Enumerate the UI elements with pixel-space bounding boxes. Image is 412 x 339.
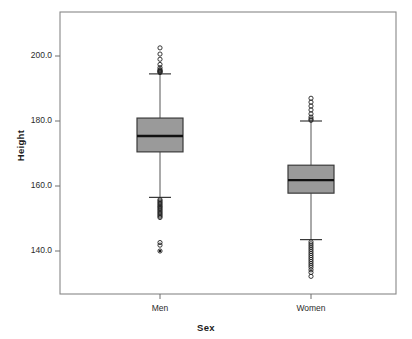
box-group-men — [137, 46, 183, 253]
x-axis-title: Sex — [0, 322, 412, 333]
y-tick-label-180: 180.0 — [10, 115, 52, 125]
x-category-label-women: Women — [276, 303, 346, 313]
y-tick-label-160: 160.0 — [10, 180, 52, 190]
x-category-label-men: Men — [125, 303, 195, 313]
y-axis-title-wrap: Height — [2, 120, 62, 180]
outlier-low-men-16 — [158, 243, 162, 247]
y-tick-label-140: 140.0 — [10, 245, 52, 255]
outlier-high-men-1 — [158, 52, 162, 56]
box-group-women — [288, 96, 334, 278]
extreme-marker-men-0 — [159, 250, 161, 252]
boxplot-figure: Height Sex 200.0 180.0 160.0 140.0 Men W… — [0, 0, 412, 339]
outlier-high-men-2 — [158, 57, 162, 61]
y-tick-label-200: 200.0 — [10, 50, 52, 60]
outlier-high-men-0 — [158, 46, 162, 50]
plot-frame — [60, 12, 396, 294]
